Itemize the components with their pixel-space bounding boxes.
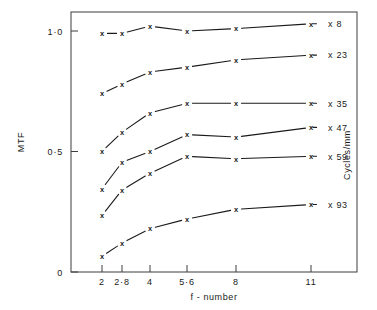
x-axis-title: f - number xyxy=(190,292,237,302)
x-tick-label: 11 xyxy=(306,277,317,287)
mtf-chart-figure: 00·51·0 22·845·6811 xxxxxxxxxxxxxxxxxxxx… xyxy=(0,0,377,310)
series-label-35: x 35 xyxy=(328,99,348,109)
series-label-23: x 23 xyxy=(328,50,348,60)
x-tick-label: 8 xyxy=(233,277,239,287)
y-tick-label: 0 xyxy=(57,268,63,278)
x-tick-label: 2 xyxy=(99,277,105,287)
chart-canvas: 00·51·0 22·845·6811 xxxxxxxxxxxxxxxxxxxx… xyxy=(0,0,377,310)
x-tick-label: 4 xyxy=(147,277,153,287)
secondary-axis-title: Cycles/mm xyxy=(342,130,352,180)
y-tick-label: 1·0 xyxy=(48,27,63,37)
x-tick-label: 2·8 xyxy=(114,277,129,287)
y-tick-label: 0·5 xyxy=(48,147,63,157)
series-label-93: x 93 xyxy=(328,200,348,210)
series-label-8: x 8 xyxy=(328,19,342,29)
y-axis-title: MTF xyxy=(16,132,26,152)
x-tick-label: 5·6 xyxy=(179,277,194,287)
